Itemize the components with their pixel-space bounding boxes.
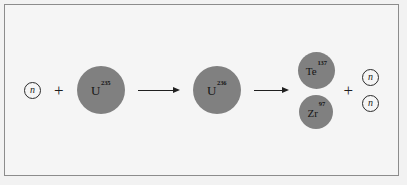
arrow-head (173, 87, 180, 93)
reaction-arrow-1-icon (138, 85, 180, 95)
plus-sign-right: + (344, 82, 354, 99)
reaction-arrow-2-icon (254, 85, 289, 95)
nuclide-tellurium-137: Te137 (298, 52, 335, 89)
fission-products-group: Te137 Zr97 (298, 52, 335, 129)
arrow-head (282, 87, 289, 93)
neutron-label: n (368, 98, 373, 108)
figure-frame: n + U235 U236 Te137 (4, 4, 399, 176)
arrow-shaft (254, 90, 283, 91)
mass-number: 235 (101, 79, 110, 86)
fission-equation: n + U235 U236 Te137 (5, 5, 398, 175)
mass-number: 137 (317, 59, 326, 66)
nuclide-zirconium-97: Zr97 (299, 95, 333, 129)
neutron-label: n (30, 85, 35, 95)
plus-sign-left: + (54, 82, 64, 99)
neutron-label: n (368, 72, 373, 82)
neutron-product-2: n (362, 95, 379, 112)
nuclide-label: U235 (91, 81, 110, 99)
nuclide-label: Zr97 (307, 103, 324, 121)
element-symbol: Zr (307, 107, 318, 119)
mass-number: 236 (217, 79, 226, 86)
mass-number: 97 (319, 100, 325, 107)
nuclide-uranium-235: U235 (77, 66, 125, 114)
nuclide-label: U236 (207, 81, 226, 99)
nuclide-label: Te137 (306, 61, 327, 79)
nuclide-uranium-236: U236 (193, 66, 241, 114)
arrow-shaft (138, 90, 174, 91)
element-symbol: Te (306, 65, 317, 77)
emitted-neutrons-group: n n (362, 69, 379, 112)
element-symbol: U (91, 83, 101, 98)
neutron-reactant: n (24, 82, 41, 99)
element-symbol: U (207, 83, 217, 98)
neutron-product-1: n (362, 69, 379, 86)
